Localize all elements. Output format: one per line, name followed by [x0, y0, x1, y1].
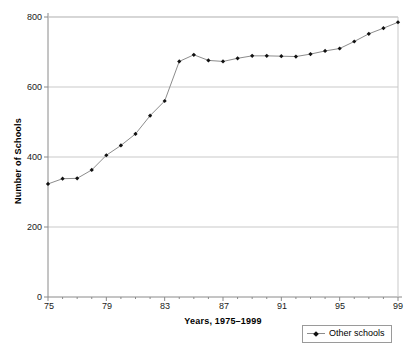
gridlines: [48, 17, 398, 227]
line-chart: Number of Schools 800 600 400 200 0 75 7…: [0, 0, 412, 349]
data-series-other-schools: [46, 20, 400, 186]
chart-legend: Other schools: [302, 325, 392, 343]
axis-ticks: [44, 17, 398, 301]
legend-label-other-schools: Other schools: [329, 328, 385, 339]
plot-area: [0, 0, 412, 349]
axis-lines: [48, 13, 402, 297]
legend-marker-icon: [307, 329, 325, 338]
